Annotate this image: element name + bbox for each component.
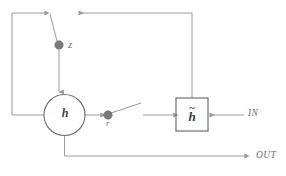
z-gate-label: z — [68, 38, 72, 50]
input-port-label: IN — [248, 108, 258, 118]
diagram-canvas: z r h ~ h IN OUT — [0, 0, 286, 176]
wire-state-to-out — [65, 136, 246, 157]
output-port-label: OUT — [256, 150, 276, 160]
wire-z-switch-arm — [50, 14, 57, 41]
candidate-symbol: ~ h — [182, 105, 202, 123]
wire-r-switch-arm — [111, 103, 141, 113]
wire-state-feedback-left — [12, 13, 45, 115]
r-gate-label: r — [106, 118, 110, 128]
candidate-letter: h — [188, 109, 195, 124]
z-gate-node[interactable] — [55, 41, 63, 49]
state-symbol: h — [55, 106, 75, 121]
diagram-svg — [0, 0, 286, 176]
